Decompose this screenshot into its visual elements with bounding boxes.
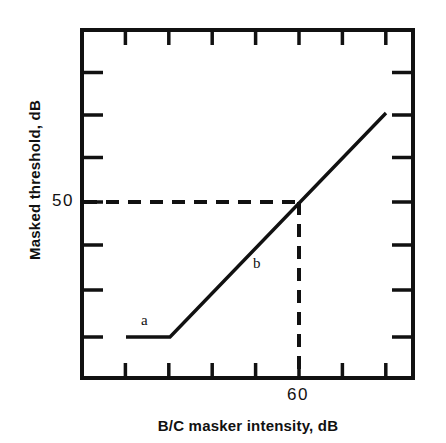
x-axis-ticks (125, 358, 385, 378)
x-axis-top-ticks (125, 30, 385, 45)
x-tick-label-60: 60 (268, 385, 328, 405)
x-axis-title: B/C masker intensity, dB (113, 417, 383, 434)
masking-function-curve (126, 113, 386, 337)
y-axis-ticks (82, 73, 103, 338)
curve-annotation-b: b (253, 255, 261, 272)
chart-figure: Masked threshold, dB B/C masker intensit… (0, 0, 446, 443)
y-tick-label-50: 50 (24, 191, 74, 211)
y-axis-title: Masked threshold, dB (26, 50, 43, 310)
plot-area (0, 0, 446, 443)
curve-annotation-a: a (141, 312, 148, 329)
y-axis-right-ticks (392, 73, 413, 338)
